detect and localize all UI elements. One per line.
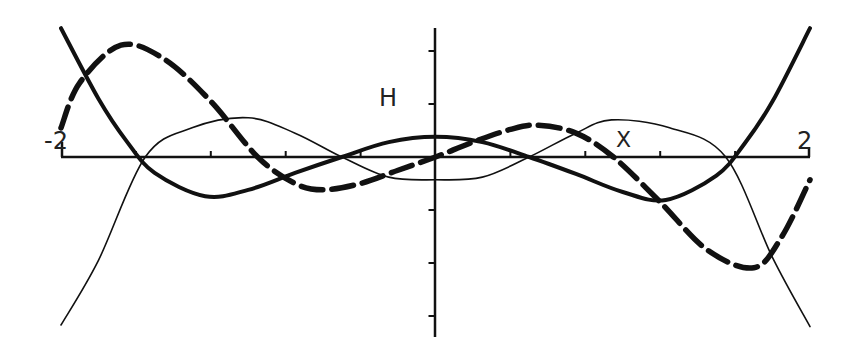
x-min-label: -2 [44, 127, 68, 155]
x-axis-name: X [616, 127, 631, 152]
x-max-label: 2 [797, 127, 812, 155]
axis-labels: -2 2 X H [44, 84, 812, 155]
y-axis-name: H [379, 84, 397, 112]
chart-plot: -2 2 X H [0, 0, 864, 358]
